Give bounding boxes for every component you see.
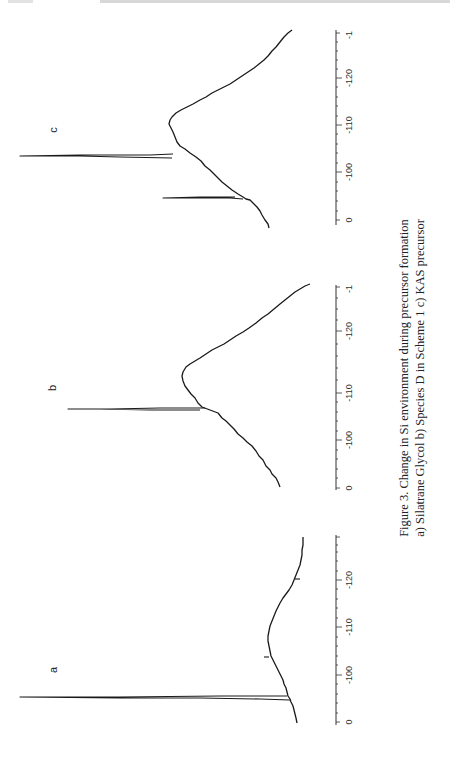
panel-a-label: a (47, 666, 59, 673)
spectrum-c-peak-107 (20, 154, 173, 158)
panel-b-tick-110: -110 (344, 384, 354, 401)
panel-a: a 0 -100 -110 -120 (20, 535, 354, 725)
panel-c-label: c (47, 127, 59, 133)
panel-b: b 0 -100 -110 -120 -1 (46, 284, 354, 491)
panel-a-ticks (336, 537, 342, 722)
panel-c: c 0 -100 -110 -120 -1 (20, 30, 354, 228)
panel-c-tick-end: -1 (344, 31, 354, 39)
panel-b-ticks (336, 287, 342, 488)
panel-a-tick-100: -100 (344, 666, 354, 684)
panel-b-tick-0: 0 (344, 485, 354, 490)
spectrum-b-trace (182, 284, 310, 487)
panel-a-tick-120: -120 (344, 571, 354, 589)
figure-caption-legend: a) Silatrane Glycol b) Species D in Sche… (413, 218, 427, 536)
spectrum-c-peak-95 (163, 197, 243, 199)
figure-caption-title: Figure 3. Change in Si environment durin… (397, 218, 411, 536)
spectrum-b-peak-104 (68, 408, 205, 410)
panel-b-label: b (46, 385, 58, 391)
panel-c-tick-100: -100 (344, 163, 354, 181)
panel-a-tick-0: 0 (344, 719, 354, 724)
panel-b-tick-120: -120 (344, 322, 354, 340)
nmr-figure: c 0 -100 -110 -120 -1 b (0, 0, 461, 757)
panel-b-tick-100: -100 (344, 431, 354, 449)
panel-b-tick-end: -1 (344, 285, 354, 293)
spectrum-a-peak-95 (20, 696, 290, 700)
spectrum-a-trace (268, 537, 303, 723)
panel-c-tick-120: -120 (344, 69, 354, 87)
panel-c-tick-110: -110 (344, 116, 354, 133)
panel-c-ticks (336, 33, 342, 220)
panel-a-tick-110: -110 (344, 618, 354, 635)
panel-c-tick-0: 0 (344, 217, 354, 222)
